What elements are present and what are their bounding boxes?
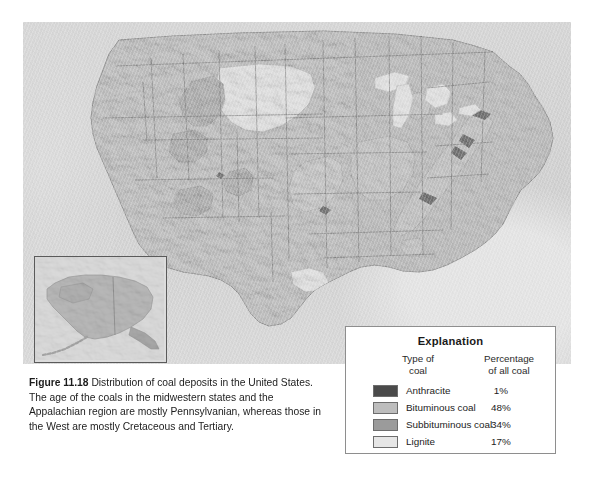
legend-swatch-lignite [373, 436, 398, 448]
legend-column-headers: Type of coal Percentage of all coal [346, 353, 555, 383]
legend-label-anthracite: Anthracite [406, 385, 450, 396]
legend-percentage-lignite: 17% [470, 436, 532, 447]
legend-row-anthracite: Anthracite 1% [346, 383, 555, 400]
legend-row-bituminous: Bituminous coal 48% [346, 400, 555, 417]
legend-swatch-bituminous [373, 402, 398, 414]
legend-percentage-anthracite: 1% [470, 385, 532, 396]
legend-label-bituminous: Bituminous coal [406, 402, 476, 413]
legend-percentage-bituminous: 48% [470, 402, 532, 413]
legend-label-lignite: Lignite [406, 436, 435, 447]
legend-swatch-anthracite [373, 385, 398, 397]
legend-column-header-percentage-line1: Percentage [470, 353, 548, 365]
legend-swatch-subbituminous [373, 419, 398, 431]
alaska-map-graphic [35, 257, 164, 360]
figure-number: Figure 11.18 [29, 377, 89, 388]
legend-row-lignite: Lignite 17% [346, 434, 555, 451]
figure-caption: Figure 11.18 Distribution of coal deposi… [29, 376, 329, 434]
legend-column-header-percentage-line2: of all coal [470, 365, 548, 377]
map-panel [23, 22, 571, 364]
legend-title: Explanation [346, 335, 555, 347]
legend-row-subbituminous: Subbituminous coal 34% [346, 417, 555, 434]
alaska-inset-panel [34, 256, 167, 363]
legend-column-header-percentage: Percentage of all coal [470, 353, 548, 377]
legend-column-header-type: Type of coal [370, 353, 466, 377]
legend-column-header-type-line2: coal [370, 365, 466, 377]
legend-explanation-box: Explanation Type of coal Percentage of a… [345, 326, 556, 454]
legend-column-header-type-line1: Type of [370, 353, 466, 365]
legend-percentage-subbituminous: 34% [470, 419, 532, 430]
figure-coal-deposits: Figure 11.18 Distribution of coal deposi… [0, 0, 595, 482]
